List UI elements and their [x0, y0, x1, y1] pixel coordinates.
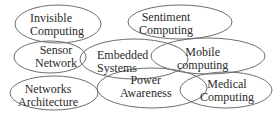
node-power-awareness: Power Awareness: [120, 74, 172, 100]
node-label-line2: Computing: [139, 24, 193, 37]
node-mobile-computing: Mobile computing: [177, 46, 228, 72]
node-label-line2: computing: [177, 59, 228, 72]
node-label-line2: Architecture: [18, 96, 78, 109]
node-sensor-network: Sensor Network: [35, 44, 77, 70]
ellipse-diagram: Invisible Computing Sentiment Computing …: [0, 0, 279, 117]
node-embedded-systems: Embedded Systems: [97, 49, 148, 75]
node-label-line2: Computing: [30, 25, 84, 38]
node-label-line2: Computing: [200, 91, 254, 104]
node-label-line2: Network: [35, 57, 77, 70]
node-networks-architecture: Networks Architecture: [18, 83, 78, 109]
node-invisible-computing: Invisible Computing: [30, 12, 84, 38]
node-medical-computing: Medical Computing: [200, 78, 254, 104]
node-label-line2: Awareness: [120, 87, 172, 100]
node-sentiment-computing: Sentiment Computing: [139, 11, 193, 37]
